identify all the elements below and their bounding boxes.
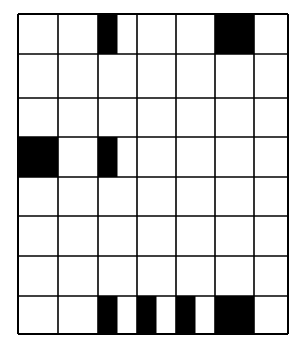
filled-cell [176, 296, 196, 334]
grid-diagram [0, 0, 304, 348]
filled-cell [98, 296, 118, 334]
filled-cell [98, 137, 118, 177]
grid-lines [18, 14, 288, 334]
filled-cell [98, 14, 118, 54]
filled-cell [137, 296, 157, 334]
filled-cell [215, 296, 254, 334]
filled-cell [215, 14, 254, 54]
filled-cell [18, 137, 58, 177]
filled-cells [18, 14, 254, 334]
